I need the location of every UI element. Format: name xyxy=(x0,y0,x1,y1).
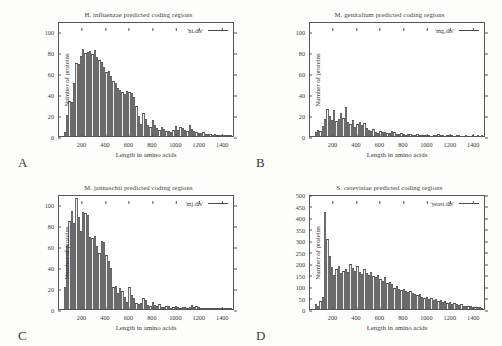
x-tick-label: 800 xyxy=(398,137,407,148)
y-tick-mark xyxy=(309,74,312,75)
panel-b-title: M. genitalium predicted coding regions xyxy=(251,11,502,18)
x-tick-mark-top xyxy=(128,28,129,31)
y-tick-mark xyxy=(309,137,312,138)
panel-d-bars xyxy=(310,196,484,309)
x-tick-mark-top xyxy=(426,28,427,31)
y-tick-label: 500 xyxy=(296,192,309,199)
panel-a-xlabel: Length in amino acids xyxy=(58,151,234,158)
x-tick-label: 800 xyxy=(147,310,156,321)
y-tick-mark-right xyxy=(234,310,237,311)
y-tick-mark xyxy=(58,289,61,290)
y-tick-label: 100 xyxy=(296,29,309,36)
panel-c-legend: 'mj.dis' xyxy=(185,200,228,207)
y-tick-label: 80 xyxy=(48,50,58,57)
y-tick-mark-right xyxy=(485,264,488,265)
panel-c: M. jannaschii predicted coding regions 0… xyxy=(0,173,251,346)
y-tick-mark xyxy=(309,287,312,288)
histogram-bar xyxy=(230,308,232,309)
y-tick-mark xyxy=(309,218,312,219)
y-tick-label: 250 xyxy=(296,249,309,256)
y-tick-mark xyxy=(58,53,61,54)
x-tick-mark xyxy=(473,307,474,310)
x-tick-mark xyxy=(450,134,451,137)
x-tick-mark xyxy=(222,134,223,137)
y-tick-label: 60 xyxy=(48,244,58,251)
panel-b-legend: 'mg.dis' xyxy=(435,27,479,34)
x-tick-mark xyxy=(426,134,427,137)
y-tick-label: 400 xyxy=(296,215,309,222)
panel-a-plot: 020406080100 200400600800100012001400 'h… xyxy=(58,22,234,137)
y-tick-mark-right xyxy=(234,32,237,33)
x-tick-label: 400 xyxy=(351,310,360,321)
x-tick-label: 1400 xyxy=(216,310,228,321)
y-tick-mark-right xyxy=(485,53,488,54)
y-tick-mark-right xyxy=(234,53,237,54)
x-tick-label: 600 xyxy=(124,310,133,321)
y-tick-mark xyxy=(309,207,312,208)
x-tick-label: 600 xyxy=(375,310,384,321)
x-tick-mark xyxy=(356,307,357,310)
x-tick-mark-top xyxy=(175,201,176,204)
y-tick-label: 60 xyxy=(48,71,58,78)
x-tick-mark-top xyxy=(105,28,106,31)
y-tick-mark-right xyxy=(234,247,237,248)
y-tick-mark-right xyxy=(234,116,237,117)
y-tick-mark-right xyxy=(234,205,237,206)
x-tick-mark-top xyxy=(426,201,427,204)
y-tick-mark-right xyxy=(485,207,488,208)
panel-letter-c: C xyxy=(18,328,27,344)
y-tick-mark-right xyxy=(485,116,488,117)
x-tick-label: 1000 xyxy=(169,310,181,321)
panel-b-plot: 020406080100 200400600800100012001400 'm… xyxy=(309,22,485,137)
panel-b-legend-label: 'mg.dis' xyxy=(435,27,454,34)
x-tick-label: 200 xyxy=(77,310,86,321)
x-tick-label: 1400 xyxy=(467,137,479,148)
panel-b-ylabel: Number of proteins xyxy=(314,30,321,130)
y-tick-mark xyxy=(58,310,61,311)
panel-d-plot: 050100150200250300350400450500 200400600… xyxy=(309,195,485,310)
panel-letter-d: D xyxy=(256,328,266,344)
x-tick-label: 800 xyxy=(398,310,407,321)
x-tick-mark xyxy=(175,134,176,137)
y-tick-label: 450 xyxy=(296,203,309,210)
x-tick-label: 800 xyxy=(147,137,156,148)
histogram-bar xyxy=(481,308,483,309)
x-tick-label: 600 xyxy=(375,137,384,148)
x-tick-mark xyxy=(426,307,427,310)
histogram-bar xyxy=(428,135,430,136)
y-tick-mark-right xyxy=(234,74,237,75)
y-tick-mark xyxy=(309,241,312,242)
x-tick-label: 1400 xyxy=(216,137,228,148)
panel-b: M. genitalium predicted coding regions 0… xyxy=(251,0,502,173)
y-tick-mark xyxy=(309,299,312,300)
panel-c-legend-label: 'mj.dis' xyxy=(185,200,203,207)
x-tick-mark xyxy=(379,307,380,310)
x-tick-label: 1400 xyxy=(467,310,479,321)
y-tick-mark xyxy=(58,226,61,227)
x-tick-mark-top xyxy=(403,28,404,31)
y-tick-mark-right xyxy=(485,241,488,242)
y-tick-mark-right xyxy=(485,310,488,311)
y-tick-label: 350 xyxy=(296,226,309,233)
histogram-bar xyxy=(458,135,460,136)
x-tick-mark xyxy=(332,307,333,310)
panel-a: H. influenzae predicted coding regions 0… xyxy=(0,0,251,173)
histogram-bar xyxy=(451,135,453,136)
y-tick-mark xyxy=(58,205,61,206)
x-tick-mark xyxy=(450,307,451,310)
y-tick-mark-right xyxy=(485,195,488,196)
x-tick-mark-top xyxy=(379,28,380,31)
x-tick-mark xyxy=(152,307,153,310)
panel-c-xlabel: Length in amino acids xyxy=(58,324,234,331)
y-tick-mark-right xyxy=(485,74,488,75)
y-tick-mark xyxy=(58,74,61,75)
y-tick-mark-right xyxy=(485,218,488,219)
panel-b-legend-swatch xyxy=(459,30,479,31)
y-tick-mark-right xyxy=(234,137,237,138)
y-tick-mark-right xyxy=(234,268,237,269)
x-tick-mark-top xyxy=(332,28,333,31)
y-tick-mark xyxy=(309,95,312,96)
x-tick-mark xyxy=(199,307,200,310)
panel-b-xlabel: Length in amino acids xyxy=(309,151,485,158)
panel-d-ylabel: Number of proteins xyxy=(314,203,321,303)
